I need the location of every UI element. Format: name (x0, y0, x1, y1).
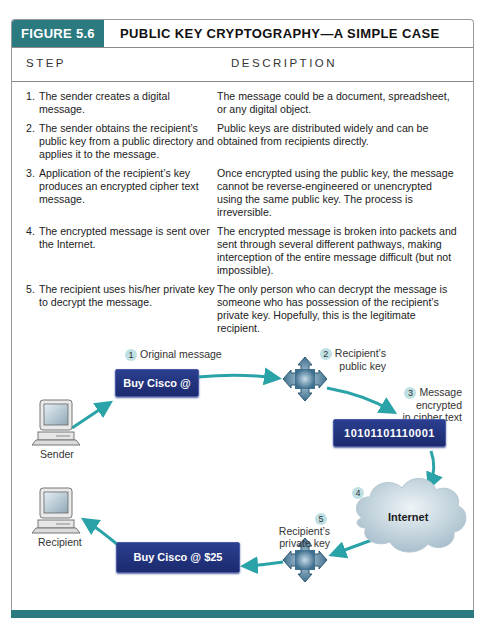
step-2-caption: 2Recipient’s public key (311, 347, 386, 372)
step-5-caption: 5Recipient’s private key (268, 512, 330, 549)
step-badge: 4 (352, 487, 364, 499)
step-label: private key (279, 537, 330, 549)
step-badge: 5 (315, 513, 327, 525)
step-badge: 1 (125, 349, 137, 361)
recipient-label: Recipient (38, 536, 82, 548)
decrypted-message-box: Buy Cisco @ $25 (116, 542, 240, 573)
step-3-caption: 3Message encrypted in cipher text (362, 386, 462, 423)
sender-computer-icon (32, 400, 80, 445)
step-label: Recipient’s (335, 347, 386, 359)
internet-label: Internet (388, 511, 428, 523)
step-label: public key (339, 360, 386, 372)
step-label: Message encrypted (416, 386, 462, 411)
sender-label: Sender (40, 448, 74, 460)
step-1-caption: 1Original message (125, 348, 222, 361)
original-message-box: Buy Cisco @ $25 (115, 369, 199, 397)
recipient-computer-icon (32, 488, 80, 533)
cipher-text-box: 10101101110001 (333, 419, 446, 447)
step-label: Original message (140, 348, 222, 360)
encryption-diagram: 1Original message Buy Cisco @ $25 2Recip… (0, 0, 492, 630)
step-badge: 3 (404, 387, 416, 399)
step-label: Recipient’s (279, 525, 330, 537)
step-badge: 2 (320, 348, 332, 360)
step-4-caption: 4 (352, 486, 367, 499)
